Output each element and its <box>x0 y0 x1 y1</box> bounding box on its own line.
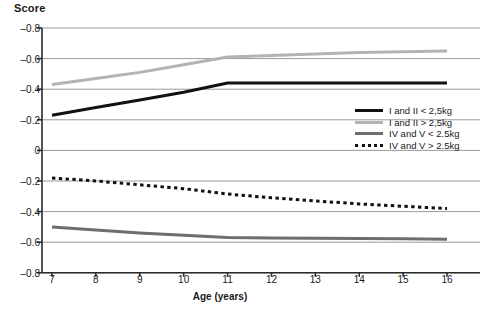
y-tick-label: –0.8 <box>6 267 40 278</box>
legend-swatch <box>355 109 383 112</box>
y-tick-label: –0.6 <box>6 237 40 248</box>
x-tick-label: 12 <box>266 274 277 285</box>
series-line <box>52 178 447 209</box>
x-tick-label: 10 <box>178 274 189 285</box>
x-tick-label: 15 <box>398 274 409 285</box>
x-tick-label: 16 <box>441 274 452 285</box>
legend-swatch <box>355 144 383 147</box>
legend-swatch <box>355 132 383 135</box>
x-axis-title: Age (years) <box>0 291 440 302</box>
legend-label: I and II > 2,5kg <box>389 117 452 129</box>
chart-legend: I and II < 2,5kgI and II > 2,5kgIV and V… <box>355 105 460 151</box>
legend-item: IV and V < 2.5kg <box>355 128 460 140</box>
legend-item: I and II > 2,5kg <box>355 117 460 129</box>
series-line <box>52 51 447 85</box>
y-tick-label: 0 <box>6 145 40 156</box>
legend-item: I and II < 2,5kg <box>355 105 460 117</box>
y-tick-label: –0.4 <box>6 206 40 217</box>
x-tick-label: 8 <box>93 274 99 285</box>
chart-container: Score –0.8–0.6–0.4–0.20–0.2–0.4–0.6–0.8 … <box>0 0 485 315</box>
legend-label: IV and V > 2.5kg <box>389 140 460 152</box>
legend-label: IV and V < 2.5kg <box>389 128 460 140</box>
y-axis-ticks: –0.8–0.6–0.4–0.20–0.2–0.4–0.6–0.8 <box>0 0 40 315</box>
y-tick-label: –0.4 <box>6 84 40 95</box>
legend-swatch <box>355 121 383 124</box>
series-line <box>52 227 447 239</box>
y-tick-label: –0.6 <box>6 53 40 64</box>
x-tick-label: 11 <box>222 274 232 285</box>
x-tick-label: 7 <box>49 274 55 285</box>
x-tick-label: 14 <box>354 274 365 285</box>
legend-item: IV and V > 2.5kg <box>355 140 460 152</box>
x-tick-label: 9 <box>137 274 143 285</box>
legend-label: I and II < 2,5kg <box>389 105 452 117</box>
y-tick-label: –0.2 <box>6 176 40 187</box>
y-tick-label: –0.2 <box>6 114 40 125</box>
y-tick-label: –0.8 <box>6 23 40 34</box>
plot-area <box>0 0 485 315</box>
x-tick-label: 13 <box>310 274 321 285</box>
